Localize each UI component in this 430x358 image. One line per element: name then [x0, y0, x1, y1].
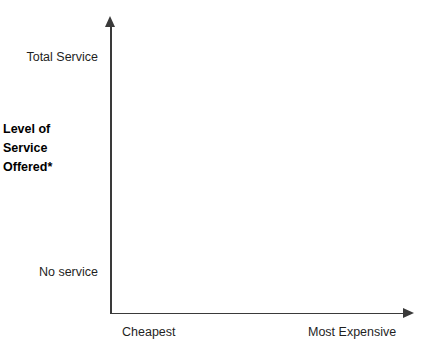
plot-area: [111, 24, 406, 312]
y-axis-title: Level of Service Offered*: [3, 120, 52, 177]
x-axis-line: [110, 313, 406, 315]
chart-figure: Level of Service Offered* Total Service …: [0, 0, 430, 358]
x-axis-left-label: Cheapest: [122, 326, 176, 339]
y-axis-top-label: Total Service: [26, 51, 98, 64]
y-axis-bottom-label: No service: [39, 266, 98, 279]
x-axis-right-label: Most Expensive: [308, 326, 396, 339]
